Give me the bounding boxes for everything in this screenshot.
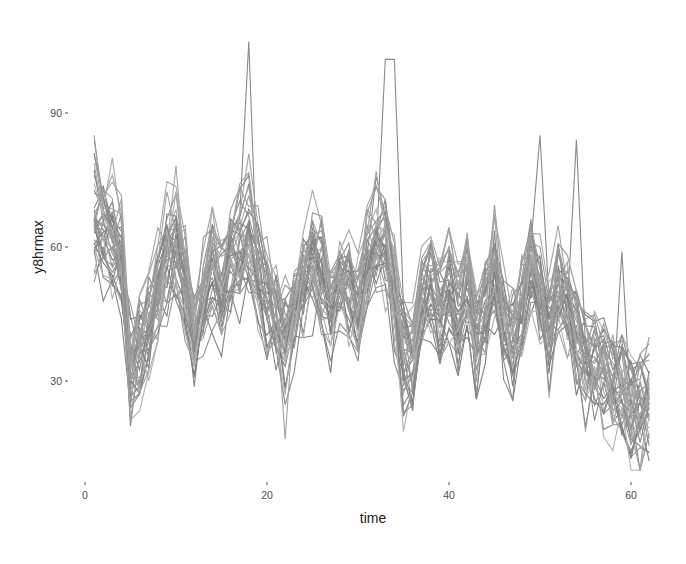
x-axis: 0204060 [82,482,637,501]
y-tick-label: 90 [50,107,62,119]
spaghetti-line-chart: 306090 0204060 time y8hrmax [0,0,686,564]
plot-canvas: 306090 0204060 time y8hrmax [0,0,686,564]
y-tick-label: 60 [50,241,62,253]
x-tick-label: 0 [82,489,88,501]
y-axis: 306090 [50,107,68,387]
y-axis-title: y8hrmax [30,220,46,274]
x-tick-label: 60 [625,489,637,501]
series-lines [94,42,649,471]
x-tick-label: 40 [443,489,455,501]
x-axis-title: time [360,510,387,526]
y-tick-label: 30 [50,375,62,387]
x-tick-label: 20 [261,489,273,501]
